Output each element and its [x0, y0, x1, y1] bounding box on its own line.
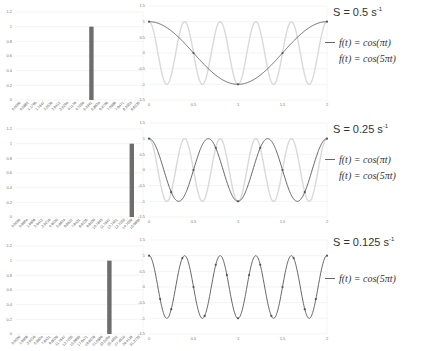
sampling-rate-label: S = 0.25 s-1 — [333, 123, 388, 135]
svg-text:0: 0 — [10, 97, 13, 102]
svg-text:2: 2 — [326, 219, 329, 224]
sample-point-marker — [315, 298, 317, 300]
legend-light-line-swatch — [325, 58, 335, 59]
svg-text:1.5: 1.5 — [139, 3, 145, 8]
spectrum-peak-bar — [89, 27, 93, 100]
sample-point-marker — [259, 264, 261, 266]
sample-point-marker — [204, 315, 206, 317]
svg-text:0: 0 — [143, 167, 146, 172]
sampling-rate-label: S = 0.125 s-1 — [333, 236, 394, 248]
sample-point-marker — [215, 264, 217, 266]
svg-text:1: 1 — [143, 253, 146, 258]
sample-point-marker — [237, 200, 239, 202]
sample-point-marker — [181, 257, 183, 259]
waveform-line-chart-2: 1.510.50-0.5-1-1.500.511.52 — [143, 117, 328, 234]
legend-dark-line-swatch — [325, 159, 335, 160]
svg-text:0.5: 0.5 — [139, 152, 145, 157]
svg-text:0: 0 — [148, 102, 151, 107]
panel-row-1: 00.20.40.60.811.20.00000.58821.17651.764… — [0, 0, 429, 117]
spectrum-bar-chart-2: 00.20.40.60.811.20.00000.98041.96082.941… — [0, 117, 145, 234]
svg-text:0.8: 0.8 — [6, 156, 12, 161]
svg-text:0.6: 0.6 — [6, 53, 12, 58]
svg-text:0.2: 0.2 — [6, 317, 12, 322]
sample-point-marker — [248, 274, 250, 276]
legend-entry-light: f(t) = cos(5πt) — [325, 53, 396, 64]
svg-text:0.4: 0.4 — [6, 185, 12, 190]
sample-point-marker — [281, 286, 283, 288]
svg-text:0.8: 0.8 — [6, 273, 12, 278]
sample-point-marker — [192, 286, 194, 288]
sample-point-marker — [226, 274, 228, 276]
sample-point-marker — [170, 308, 172, 310]
waveform-line-chart-1: 1.510.50-0.5-1-1.500.511.52 — [143, 0, 328, 117]
sample-point-marker — [304, 191, 306, 193]
sample-point-marker — [148, 255, 150, 257]
svg-text:-1: -1 — [141, 82, 145, 87]
legend-light-line-swatch — [325, 175, 335, 176]
svg-text:2: 2 — [326, 336, 329, 341]
svg-text:1.5: 1.5 — [280, 102, 286, 107]
svg-text:0.6: 0.6 — [6, 170, 12, 175]
svg-text:8.8235: 8.8235 — [130, 101, 141, 112]
svg-text:0.2: 0.2 — [6, 83, 12, 88]
sample-point-marker — [326, 138, 328, 140]
svg-text:0.5: 0.5 — [191, 102, 197, 107]
svg-text:1: 1 — [143, 19, 146, 24]
sample-point-marker — [270, 315, 272, 317]
sample-point-marker — [148, 138, 150, 140]
sample-point-marker — [170, 191, 172, 193]
svg-text:1.2: 1.2 — [6, 126, 12, 131]
svg-text:-0.5: -0.5 — [138, 300, 146, 305]
svg-text:0.5: 0.5 — [191, 219, 197, 224]
legend-entry-dark: f(t) = cos(5πt) — [325, 273, 396, 284]
svg-text:0: 0 — [10, 214, 13, 219]
svg-text:0.4: 0.4 — [6, 302, 12, 307]
spectrum-peak-bar — [107, 261, 111, 334]
svg-text:0.8: 0.8 — [6, 39, 12, 44]
legend-dark-line-swatch — [325, 278, 335, 279]
svg-text:0.5: 0.5 — [139, 35, 145, 40]
sample-point-marker — [281, 52, 283, 54]
svg-text:0: 0 — [148, 336, 151, 341]
sample-point-marker — [281, 169, 283, 171]
sample-point-marker — [259, 147, 261, 149]
svg-text:0.4: 0.4 — [6, 68, 12, 73]
sample-point-marker — [159, 298, 161, 300]
legend-entry-dark: f(t) = cos(πt) — [325, 37, 391, 48]
sample-point-marker — [192, 52, 194, 54]
svg-text:1: 1 — [237, 102, 240, 107]
svg-text:0: 0 — [143, 50, 146, 55]
svg-text:1: 1 — [10, 24, 13, 29]
svg-text:1.5: 1.5 — [139, 120, 145, 125]
sample-point-marker — [304, 308, 306, 310]
svg-text:1: 1 — [10, 141, 13, 146]
svg-text:0.5: 0.5 — [191, 336, 197, 341]
spectrum-peak-bar — [130, 144, 134, 217]
sample-point-marker — [237, 317, 239, 319]
svg-text:1.5: 1.5 — [280, 336, 286, 341]
sample-point-marker — [148, 21, 150, 23]
panel-row-2: 00.20.40.60.811.20.00000.98041.96082.941… — [0, 117, 429, 234]
svg-text:-0.5: -0.5 — [138, 183, 146, 188]
sample-point-marker — [326, 21, 328, 23]
sample-point-marker — [326, 255, 328, 257]
svg-text:1: 1 — [10, 258, 13, 263]
sampling-rate-label: S = 0.5 s-1 — [333, 6, 382, 18]
svg-text:1: 1 — [237, 336, 240, 341]
legend-entry-light: f(t) = cos(5πt) — [325, 170, 396, 181]
svg-text:-1: -1 — [141, 199, 145, 204]
svg-text:0.6: 0.6 — [6, 287, 12, 292]
spectrum-bar-chart-1: 00.20.40.60.811.20.00000.58821.17651.764… — [0, 0, 145, 117]
legend-entry-dark: f(t) = cos(πt) — [325, 154, 391, 165]
svg-text:0: 0 — [10, 331, 13, 336]
svg-text:2: 2 — [326, 102, 329, 107]
sample-point-marker — [192, 169, 194, 171]
svg-text:0: 0 — [148, 219, 151, 224]
svg-text:1.2: 1.2 — [6, 9, 12, 14]
svg-text:1: 1 — [143, 136, 146, 141]
panel-row-3: 00.20.40.60.811.20.00001.96083.92165.882… — [0, 234, 429, 351]
svg-text:1.5: 1.5 — [139, 237, 145, 242]
svg-text:0: 0 — [143, 284, 146, 289]
sample-point-marker — [237, 83, 239, 85]
spectrum-bar-chart-3: 00.20.40.60.811.20.00001.96083.92165.882… — [0, 234, 145, 351]
